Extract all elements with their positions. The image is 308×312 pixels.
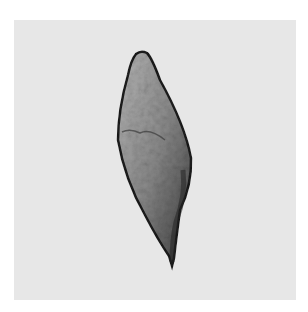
egg-body — [118, 52, 191, 266]
parasite-egg-specimen — [0, 0, 308, 312]
